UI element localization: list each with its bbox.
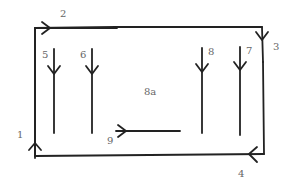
label-5: 5 xyxy=(42,50,48,60)
label-7: 7 xyxy=(246,46,252,56)
arrow-7 xyxy=(234,47,246,135)
label-2: 2 xyxy=(60,9,66,19)
label-8: 8 xyxy=(208,47,214,57)
label-center: 8a xyxy=(144,87,156,97)
label-4: 4 xyxy=(238,169,244,179)
arrow-5 xyxy=(48,49,60,133)
label-6: 6 xyxy=(80,50,86,60)
label-9: 9 xyxy=(107,136,113,146)
arrow-9 xyxy=(116,125,180,137)
label-3: 3 xyxy=(273,42,279,52)
label-1: 1 xyxy=(17,130,23,140)
arrow-6 xyxy=(86,49,98,133)
arrow-8 xyxy=(196,48,208,133)
